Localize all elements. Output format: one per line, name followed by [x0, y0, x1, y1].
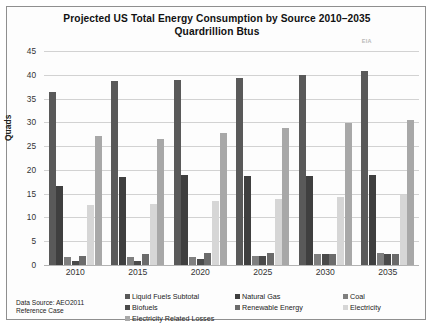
bar: [119, 177, 126, 265]
bar: [204, 253, 211, 265]
bar: [306, 176, 313, 265]
y-tick-label-20: 20: [27, 165, 36, 175]
legend-swatch-icon: [235, 305, 240, 310]
legend-label: Renewable Energy: [242, 303, 303, 312]
bar: [189, 257, 196, 265]
bar-groups: [44, 51, 419, 265]
legend-label: Electricity Related Losses: [132, 314, 214, 323]
legend-item[interactable]: Electricity: [343, 303, 381, 312]
x-tick-label-2025: 2025: [232, 267, 295, 281]
y-axis-tick-labels: 051015202530354045: [7, 51, 40, 265]
bar: [49, 92, 56, 265]
bar: [329, 254, 336, 265]
bar-group-2035: [357, 51, 420, 265]
y-tick-label-10: 10: [27, 212, 36, 222]
bar: [197, 259, 204, 265]
bar-group-2015: [107, 51, 170, 265]
y-tick-label-40: 40: [27, 70, 36, 80]
y-tick-label-0: 0: [31, 260, 36, 270]
x-tick-label-2035: 2035: [357, 267, 420, 281]
bar: [392, 254, 399, 265]
bar: [369, 175, 376, 265]
bar: [79, 256, 86, 266]
bar: [236, 78, 243, 265]
eia-watermark: EIA: [362, 38, 372, 44]
x-tick-label-2030: 2030: [294, 267, 357, 281]
chart-card: Projected US Total Energy Consumption by…: [6, 6, 426, 320]
x-axis-tick-labels: 201020152020202520302035: [44, 267, 419, 281]
y-tick-label-30: 30: [27, 117, 36, 127]
source-note: Data Source: AEO2011 Reference Case: [16, 299, 84, 316]
bar: [345, 123, 352, 265]
legend-label: Natural Gas: [242, 292, 280, 301]
legend-item[interactable]: Coal: [343, 292, 365, 301]
legend-swatch-icon: [343, 294, 348, 299]
bar: [142, 254, 149, 265]
bar: [157, 139, 164, 265]
chart-legend: Liquid Fuels SubtotalNatural GasCoalBiof…: [125, 292, 425, 326]
legend-item[interactable]: Renewable Energy: [235, 303, 303, 312]
legend-swatch-icon: [235, 294, 240, 299]
bar: [322, 254, 329, 265]
legend-label: Electricity: [350, 303, 381, 312]
bar: [252, 256, 259, 266]
bar-group-2025: [232, 51, 295, 265]
bar: [244, 176, 251, 265]
y-tick-label-25: 25: [27, 141, 36, 151]
legend-swatch-icon: [125, 305, 130, 310]
legend-label: Biofuels: [132, 303, 158, 312]
bar: [299, 75, 306, 265]
bar: [361, 71, 368, 266]
legend-swatch-icon: [343, 305, 348, 310]
bar: [377, 253, 384, 265]
page-title: Projected US Total Energy Consumption by…: [7, 12, 427, 25]
bar: [384, 254, 391, 265]
legend-label: Coal: [350, 292, 365, 301]
bar: [314, 254, 321, 265]
bar: [64, 257, 71, 265]
y-tick-label-35: 35: [27, 94, 36, 104]
source-note-line-2: Reference Case: [16, 307, 84, 315]
bar: [267, 253, 274, 265]
bar: [56, 186, 63, 265]
bar: [407, 120, 414, 265]
plot-area: [44, 51, 419, 265]
chart-subtitle: Quardrillion Btus: [7, 25, 427, 38]
bar: [337, 197, 344, 265]
bar: [282, 128, 289, 265]
bar: [95, 136, 102, 265]
bar: [150, 204, 157, 265]
legend-item[interactable]: Electricity Related Losses: [125, 314, 214, 323]
bar: [212, 201, 219, 265]
bar: [174, 80, 181, 265]
bar: [111, 81, 118, 265]
bar-group-2020: [169, 51, 232, 265]
legend-item[interactable]: Liquid Fuels Subtotal: [125, 292, 199, 301]
bar: [134, 261, 141, 265]
legend-item[interactable]: Biofuels: [125, 303, 158, 312]
y-tick-label-45: 45: [27, 46, 36, 56]
bar: [275, 199, 282, 265]
bar: [127, 257, 134, 265]
bar: [259, 256, 266, 265]
bar: [72, 261, 79, 265]
source-note-line-1: Data Source: AEO2011: [16, 299, 84, 307]
x-tick-label-2010: 2010: [44, 267, 107, 281]
y-tick-label-15: 15: [27, 189, 36, 199]
legend-swatch-icon: [125, 294, 130, 299]
legend-item[interactable]: Natural Gas: [235, 292, 280, 301]
x-tick-label-2015: 2015: [107, 267, 170, 281]
bar: [220, 133, 227, 265]
chart-title-block: Projected US Total Energy Consumption by…: [7, 12, 427, 38]
bar-group-2030: [294, 51, 357, 265]
bar: [87, 205, 94, 265]
bar-group-2010: [44, 51, 107, 265]
bar: [181, 175, 188, 265]
legend-swatch-icon: [125, 316, 130, 321]
bar: [400, 195, 407, 265]
x-tick-label-2020: 2020: [169, 267, 232, 281]
legend-label: Liquid Fuels Subtotal: [132, 292, 199, 301]
gridline-0: [44, 265, 419, 266]
y-tick-label-5: 5: [31, 236, 36, 246]
